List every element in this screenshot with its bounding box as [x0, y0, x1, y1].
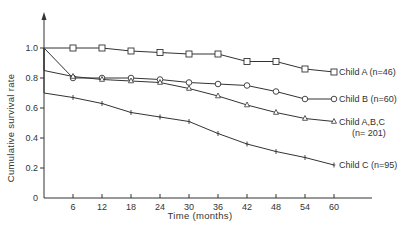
x-tick-label: 6 [70, 202, 75, 212]
circle-marker-icon [331, 96, 337, 102]
y-axis-title: Cumulative survival rate [5, 74, 16, 183]
series-group [44, 45, 337, 168]
circle-marker-icon [215, 81, 221, 87]
square-marker-icon [331, 69, 337, 75]
square-marker-icon [273, 59, 279, 65]
y-tick-label: 0 [33, 193, 38, 203]
square-marker-icon [157, 50, 163, 56]
x-tick-label: 42 [242, 202, 252, 212]
legend-label-2: Child A,B,C [339, 117, 386, 127]
legend-label-0: Child A (n=46) [339, 67, 396, 77]
series-0 [44, 45, 337, 75]
y-tick-label: 0.2 [25, 163, 38, 173]
y-tick-label: 0.4 [25, 133, 38, 143]
y-tick-label: 0.6 [25, 103, 38, 113]
circle-marker-icon [302, 96, 308, 102]
x-tick-label: 18 [126, 202, 136, 212]
legend-label-2: (n= 201) [352, 128, 386, 138]
y-tick-label: 1.0 [25, 43, 38, 53]
x-tick-label: 54 [300, 202, 310, 212]
square-marker-icon [128, 48, 134, 54]
circle-marker-icon [186, 80, 192, 86]
x-axis-title: Time (months) [168, 210, 233, 221]
square-marker-icon [186, 51, 192, 57]
x-tick-label: 48 [271, 202, 281, 212]
x-tick-label: 12 [97, 202, 107, 212]
circle-marker-icon [244, 83, 250, 89]
legend-label-1: Child B (n=60) [339, 94, 397, 104]
square-marker-icon [70, 45, 76, 51]
circle-marker-icon [273, 89, 279, 95]
square-marker-icon [99, 45, 105, 51]
y-tick-label: 0.8 [25, 73, 38, 83]
square-marker-icon [302, 66, 308, 72]
x-tick-label: 24 [155, 202, 165, 212]
inline-legend: Child A (n=46)Child B (n=60)Child A,B,C(… [339, 67, 397, 170]
legend-label-3: Child C (n=95) [339, 160, 397, 170]
square-marker-icon [215, 51, 221, 57]
axes: 00.20.40.60.81.06121824303642485460 [25, 12, 372, 212]
y-axis-arrow-icon [42, 12, 47, 20]
survival-chart: 00.20.40.60.81.06121824303642485460 Chil… [0, 0, 409, 235]
square-marker-icon [244, 59, 250, 65]
x-tick-label: 60 [329, 202, 339, 212]
series-2 [44, 48, 337, 123]
